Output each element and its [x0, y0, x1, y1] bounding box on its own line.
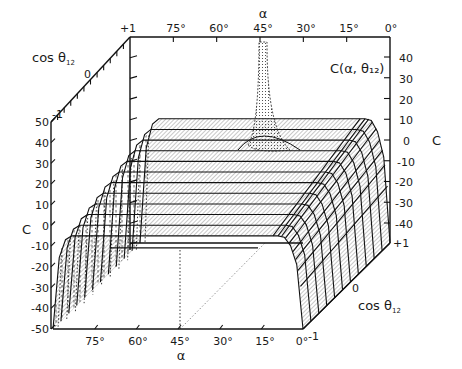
- right-c-tick-label: 20: [399, 94, 413, 107]
- left-c-tick-label: 50: [35, 116, 49, 129]
- top-alpha-tick-label: 30°: [296, 22, 316, 35]
- left-depth-zero-label: 0: [84, 68, 91, 81]
- bottom-alpha-tick-labels: 75° 60° 45° 30° 15° 0°: [85, 335, 308, 348]
- right-c-tick-label: -40: [395, 218, 413, 231]
- top-alpha-axis-title: α: [259, 6, 268, 21]
- right-c-axis-title: C: [432, 133, 441, 148]
- back-axis-tick: [130, 56, 137, 58]
- bottom-alpha-tick-label: 45°: [170, 335, 190, 348]
- right-c-tick-label: 10: [399, 114, 413, 127]
- surface: [53, 42, 390, 329]
- bottom-alpha-tick-label: 75°: [85, 335, 105, 348]
- top-alpha-tick-labels: 75° 60° 45° 30° 15° 0°: [166, 22, 397, 35]
- surface-plot: 50 40 30 20 10 0 -10 -20 -30 -40 -50 C 4…: [0, 0, 462, 369]
- left-c-tick-label: -20: [31, 261, 49, 274]
- left-c-tick-label: 20: [35, 178, 49, 191]
- cos-theta-main: cos θ: [358, 298, 392, 313]
- left-c-tick-label: -40: [31, 302, 49, 315]
- top-alpha-tick-label: 45°: [253, 22, 273, 35]
- top-alpha-tick-label: 60°: [209, 22, 229, 35]
- back-axis-tick: [130, 76, 137, 78]
- right-c-tick-label: 40: [399, 52, 413, 65]
- right-c-tick-label: 30: [399, 73, 413, 86]
- left-c-tick-labels: 50 40 30 20 10 0 -10 -20 -30 -40 -50: [31, 116, 49, 336]
- cos-theta-sub: 12: [392, 307, 401, 315]
- left-depth-axis-title: cos θ12: [32, 50, 75, 67]
- right-depth-axis-title: cos θ12: [358, 298, 401, 315]
- top-alpha-tick-label: 75°: [166, 22, 186, 35]
- left-depth-top-label: -1: [52, 108, 63, 121]
- bottom-right-corner-label: -1: [308, 330, 319, 343]
- bottom-alpha-tick-label: 15°: [255, 335, 275, 348]
- left-c-tick-label: -50: [31, 323, 49, 336]
- back-axis-tick: [130, 97, 137, 99]
- bottom-alpha-tick-label: 60°: [128, 335, 148, 348]
- cos-theta-main: cos θ: [32, 50, 66, 65]
- top-alpha-tick-label: 15°: [339, 22, 359, 35]
- diagonal-guide-line: [180, 243, 265, 329]
- back-axis-tick: [130, 118, 137, 120]
- cos-theta-sub: 12: [66, 59, 75, 67]
- back-axis-tick: [130, 139, 137, 141]
- right-c-tick-label: 0: [403, 135, 410, 148]
- left-c-tick-label: -10: [31, 240, 49, 253]
- top-alpha-tick-label: 0°: [385, 22, 398, 35]
- left-c-tick-label: 10: [35, 199, 49, 212]
- bottom-alpha-tick-label: 30°: [213, 335, 233, 348]
- right-depth-plus-label: +1: [393, 237, 409, 250]
- left-c-tick-label: -30: [31, 282, 49, 295]
- right-c-tick-labels: 40 30 20 10 0 -10 -20 -30 -40: [395, 52, 415, 231]
- left-c-tick-label: 0: [42, 220, 49, 233]
- left-c-axis-title: C: [22, 222, 31, 237]
- bottom-alpha-axis-title: α: [177, 348, 186, 363]
- function-label: C(α, θ₁₂): [330, 61, 384, 76]
- right-c-tick-label: -10: [397, 156, 415, 169]
- bottom-alpha-tick-label: 0°: [296, 335, 309, 348]
- right-c-tick-label: -20: [395, 176, 413, 189]
- left-c-tick-label: 40: [35, 137, 49, 150]
- top-left-corner-label: +1: [120, 22, 136, 35]
- left-c-tick-label: 30: [35, 158, 49, 171]
- right-depth-zero-label: 0: [352, 282, 359, 295]
- right-c-tick-label: -30: [395, 197, 413, 210]
